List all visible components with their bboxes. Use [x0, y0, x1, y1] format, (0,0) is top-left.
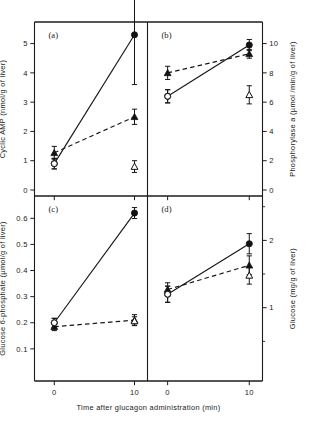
- y-ticklabel-a-2: 2: [23, 127, 28, 136]
- y-ticklabel-c-1: 0.2: [16, 318, 28, 327]
- y-ticklabel-a-5: 5: [23, 39, 28, 48]
- data-point-filled-circle: [246, 241, 252, 247]
- y-ticklabel-c-4: 0.5: [16, 240, 28, 249]
- data-point-filled-triangle: [51, 149, 58, 155]
- panel-label-c: (c): [49, 204, 59, 214]
- y-ticklabel-c-5: 0.6: [16, 214, 28, 223]
- panel-label-b: (b): [162, 30, 172, 40]
- x-ticklabel-d-0: 0: [165, 388, 170, 397]
- x-axis-title: Time after glucagon administration (min): [77, 403, 221, 412]
- data-point-filled-triangle: [246, 50, 253, 56]
- data-point-filled-triangle: [131, 113, 138, 119]
- data-point-open-circle: [51, 161, 57, 167]
- filled-triangle-marker: [51, 149, 58, 155]
- filled-triangle-marker: [246, 50, 253, 56]
- scientific-figure: (a)012345Cyclic AMP (nmol/g of liver)(b)…: [0, 0, 321, 438]
- panel-b: (b)0246810Phosphorylase a (µmol /min/g o…: [162, 30, 297, 200]
- open-triangle-marker: [131, 163, 138, 169]
- data-point-open-circle: [165, 291, 171, 297]
- data-point-open-circle: [51, 320, 57, 326]
- y-axis-title-a: Cyclic AMP (nmol/g of liver): [0, 60, 7, 159]
- axes-frame: [35, 22, 263, 381]
- open-circle-marker: [51, 161, 57, 167]
- y-ticklabel-a-0: 0: [23, 186, 28, 195]
- y-ticklabel-c-3: 0.4: [16, 266, 28, 275]
- open-circle-marker: [165, 291, 171, 297]
- data-point-filled-circle: [131, 32, 137, 38]
- filled-circle-marker: [131, 32, 137, 38]
- data-point-open-circle: [165, 93, 171, 99]
- data-point-filled-circle: [246, 42, 252, 48]
- x-ticklabel-d-1: 10: [245, 388, 254, 397]
- panel-d: (d)12010Glucose (mg/g of liver): [162, 204, 297, 397]
- figure-root: (a)012345Cyclic AMP (nmol/g of liver)(b)…: [0, 0, 321, 438]
- data-point-open-triangle: [246, 91, 253, 97]
- filled-circle-marker: [246, 241, 252, 247]
- y-axis-title-d: Glucose (mg/g of liver): [288, 248, 297, 329]
- open-triangle-marker: [246, 91, 253, 97]
- y-ticklabel-c-0: 0.1: [16, 345, 28, 354]
- y-ticklabel-b-2: 4: [269, 127, 274, 136]
- filled-circle-marker: [246, 42, 252, 48]
- series-line-b-filled-circle-solid: [168, 45, 250, 96]
- y-ticklabel-a-1: 1: [23, 156, 28, 165]
- panel-label-d: (d): [162, 204, 172, 214]
- panel-label-a: (a): [49, 30, 59, 40]
- data-point-filled-circle: [131, 210, 137, 216]
- y-ticklabel-b-5: 10: [269, 39, 278, 48]
- series-line-c-filled-triangle-dashed: [54, 320, 134, 327]
- open-circle-marker: [165, 93, 171, 99]
- y-ticklabel-a-4: 4: [23, 69, 28, 78]
- filled-triangle-marker: [246, 262, 253, 268]
- x-ticklabel-c-0: 0: [52, 388, 57, 397]
- series-line-c-filled-circle-solid: [54, 213, 134, 323]
- error-bar-a-filled-circle-solid-1: [132, 0, 137, 85]
- data-point-open-triangle: [131, 163, 138, 169]
- y-ticklabel-d-0: 1: [269, 303, 274, 312]
- y-ticklabel-b-4: 8: [269, 69, 274, 78]
- y-ticklabel-b-0: 0: [269, 186, 274, 195]
- x-ticklabel-c-1: 10: [130, 388, 139, 397]
- filled-triangle-marker: [131, 113, 138, 119]
- y-ticklabel-b-1: 2: [269, 156, 274, 165]
- data-point-filled-triangle: [246, 262, 253, 268]
- y-ticklabel-b-3: 6: [269, 98, 274, 107]
- y-ticklabel-a-3: 3: [23, 98, 28, 107]
- y-axis-title-b: Phosphorylase a (µmol /min/g of liver): [288, 41, 297, 177]
- panel-c: (c)0.10.20.30.40.50.6010Glucose 6-phosph…: [0, 204, 139, 397]
- filled-circle-marker: [131, 210, 137, 216]
- panel-a: (a)012345Cyclic AMP (nmol/g of liver): [0, 0, 138, 200]
- plot-layer: (a)012345Cyclic AMP (nmol/g of liver)(b)…: [0, 0, 297, 412]
- y-axis-title-c: Glucose 6-phosphate (µmol/g of liver): [0, 221, 7, 356]
- y-ticklabel-d-1: 2: [269, 236, 274, 245]
- series-line-a-filled-circle-solid: [54, 35, 134, 164]
- y-ticklabel-c-2: 0.3: [16, 292, 28, 301]
- open-circle-marker: [51, 320, 57, 326]
- series-line-a-filled-triangle-dashed: [54, 117, 134, 153]
